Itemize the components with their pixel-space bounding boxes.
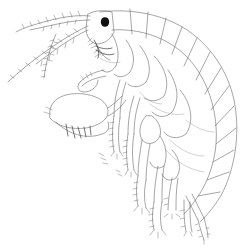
gnathopod-1 (78, 70, 106, 92)
body-segments (130, 9, 236, 196)
amphipod-drawing (0, 0, 246, 249)
coxal-plates (102, 34, 214, 172)
pleopod-setae (99, 153, 122, 176)
antenna-1 (16, 11, 90, 32)
eye (101, 17, 109, 27)
antenna-2 (8, 26, 88, 82)
mouthparts (96, 46, 120, 63)
amphipod-illustration: amphipod crustacean, lateral view line d… (0, 0, 246, 249)
uropods (180, 194, 210, 244)
pereopods (109, 80, 180, 238)
body-outline (100, 11, 237, 222)
